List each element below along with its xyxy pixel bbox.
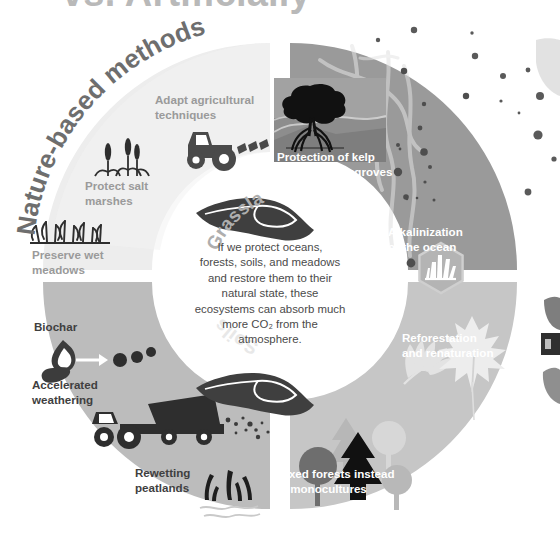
center-statement: If we protect oceans, forests, soils, an… — [193, 240, 347, 348]
label-preserve-wet-meadows: Preserve wet meadows — [32, 247, 104, 277]
label-reforestation-and-renaturation: Reforestation and renaturation — [402, 330, 493, 360]
label-rewetting-peatlands: Rewetting peatlands — [135, 465, 190, 495]
label-mixed-forests-instead-of-monocultures: Mixed forests instead of monocultures — [276, 466, 395, 496]
label-accelerated-weathering: Accelerated weathering — [32, 377, 98, 407]
infographic-canvas: vs. Artificially — [0, 0, 560, 535]
label-protect-salt-marshes: Protect salt marshes — [85, 178, 148, 208]
label-protection-of-kelp-forests-mangroves: Protection of kelp forests & mangroves — [277, 149, 392, 179]
label-adapt-agricultural-techniques: Adapt agricultural techniques — [155, 92, 254, 122]
label-alkalinization-of-the-ocean: Alkalinization of the ocean — [388, 224, 463, 254]
label-biochar: Biochar — [34, 319, 77, 334]
